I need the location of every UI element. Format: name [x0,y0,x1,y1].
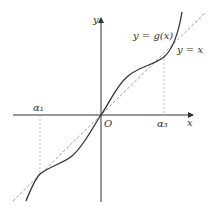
x-axis-label: x [187,117,193,128]
alpha3-label: α₃ [157,118,168,129]
diagram: y x O y = g(x) y = x α₁ α₃ [0,0,214,212]
curve-label: y = g(x) [132,30,173,41]
y-axis-label: y [92,14,99,25]
alpha1-label: α₁ [33,102,44,113]
line-label: y = x [176,44,203,55]
origin-label: O [104,118,112,129]
